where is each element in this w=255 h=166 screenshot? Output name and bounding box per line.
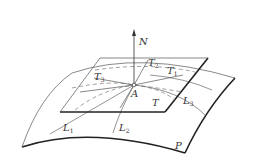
normal-vector-n — [132, 29, 136, 85]
label-t2: T2 — [148, 58, 159, 69]
tangent-plane-diagram — [0, 0, 255, 166]
point-a — [132, 83, 136, 87]
label-a: A — [131, 89, 138, 99]
curve-l3 — [134, 85, 205, 115]
label-t: T — [152, 98, 159, 108]
label-l3: L3 — [183, 96, 193, 107]
label-l1: L1 — [63, 123, 73, 134]
label-p: P — [175, 141, 182, 151]
curve-extra — [150, 75, 212, 90]
surface-p — [22, 63, 235, 153]
tangent-t2 — [134, 60, 148, 85]
label-t1: T1 — [167, 66, 178, 77]
label-l2: L2 — [119, 123, 129, 134]
label-t3: T3 — [94, 72, 105, 83]
label-n: N — [139, 37, 148, 47]
